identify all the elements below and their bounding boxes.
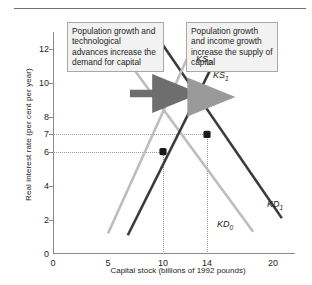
x-tick-label: 10 <box>158 259 168 268</box>
initial-equilibrium <box>159 148 166 155</box>
curve-label-kd1: KD1 <box>267 199 283 211</box>
x-tick-label: 14 <box>202 259 212 268</box>
y-tick-label: 0 <box>44 250 49 259</box>
y-axis-label: Real interest rate (per cent per year) <box>24 35 33 235</box>
y-tick-label: 12 <box>39 45 49 54</box>
curve-label-ks1: KS1 <box>213 70 229 82</box>
curve-label-ks0: KS0 <box>196 54 212 66</box>
x-tick-label: 20 <box>268 259 278 268</box>
top-divider-rule <box>14 8 306 9</box>
curve-label-kd0: KD0 <box>217 219 233 231</box>
x-tick-label: 0 <box>50 259 55 268</box>
x-tick-label: 5 <box>105 259 110 268</box>
curve-ks1 <box>128 46 223 236</box>
callout-demand-shift: Population growth and technological adva… <box>67 22 164 72</box>
curve-kd0 <box>119 49 253 232</box>
x-axis-label: Capital stock (billions of 1992 pounds) <box>53 266 303 275</box>
y-tick-label: 10 <box>39 79 49 88</box>
new-equilibrium <box>203 131 210 138</box>
figure-container: Real interest rate (per cent per year) C… <box>0 0 312 285</box>
shift-arrows <box>130 93 211 96</box>
equilibrium-points <box>159 131 210 155</box>
